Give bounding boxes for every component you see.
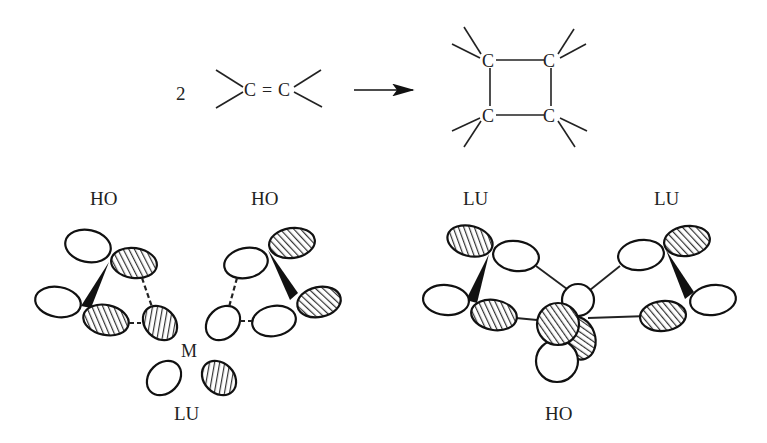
ring-carbon-top-left: C [482, 51, 494, 71]
ring-carbon-bottom-left: C [482, 106, 494, 126]
bond-line [590, 266, 620, 290]
p-orbital-open [688, 282, 738, 318]
alkene-carbon-1: C [244, 80, 256, 100]
alkene-reactant: C = C [216, 70, 322, 108]
right-orbital-diagram: LU LU HO [422, 188, 738, 424]
label-lu-bottom: LU [174, 403, 200, 424]
ring-carbon-bottom-right: C [543, 106, 555, 126]
p-orbital-open [422, 283, 470, 317]
center-orbital-hatched-front [537, 303, 579, 345]
p-orbital-hatched [662, 223, 712, 259]
p-orbital-hatched [639, 299, 687, 333]
label-lu-left: LU [463, 188, 489, 209]
p-orbital-open [221, 244, 270, 282]
p-orbital-hatched [109, 245, 159, 281]
metal-d-orbital-open [140, 354, 188, 402]
double-bond: = [262, 80, 272, 100]
p-orbital-hatched [444, 221, 496, 262]
interaction-dashed [142, 278, 152, 307]
p-orbital-open [199, 299, 247, 347]
label-ho-bottom: HO [545, 403, 572, 424]
p-orbital-open [33, 283, 84, 321]
label-ho-left: HO [90, 188, 117, 209]
alkene-carbon-2: C [278, 80, 290, 100]
orbital-diagram-figure: 2 C = C C C C C [0, 0, 767, 443]
bond-line [516, 318, 537, 320]
cyclobutane-product: C C C C [452, 27, 587, 147]
p-orbital-hatched [267, 225, 317, 261]
p-orbital-hatched [136, 299, 184, 347]
ring-carbon-top-right: C [543, 51, 555, 71]
p-orbital-open [616, 237, 666, 273]
wedge-bond-left [466, 254, 489, 303]
metal-atom-label: M [181, 341, 197, 361]
center-orbital-open-bottom [536, 340, 578, 382]
wedge-bond-right [666, 250, 694, 299]
p-orbital-hatched [294, 283, 343, 321]
metal-d-orbital-hatched [195, 354, 243, 402]
p-orbital-open [491, 238, 541, 274]
coefficient-label: 2 [176, 83, 186, 104]
wedge-bond-left [81, 262, 109, 308]
label-ho-right: HO [251, 188, 278, 209]
left-orbital-diagram: HO HO M LU [33, 188, 344, 424]
bond-line [536, 266, 567, 289]
p-orbital-open [250, 302, 299, 339]
p-orbital-open [62, 226, 114, 267]
interaction-dashed [229, 278, 237, 307]
reaction-equation: 2 C = C C C C C [176, 27, 587, 147]
label-lu-right: LU [654, 188, 680, 209]
